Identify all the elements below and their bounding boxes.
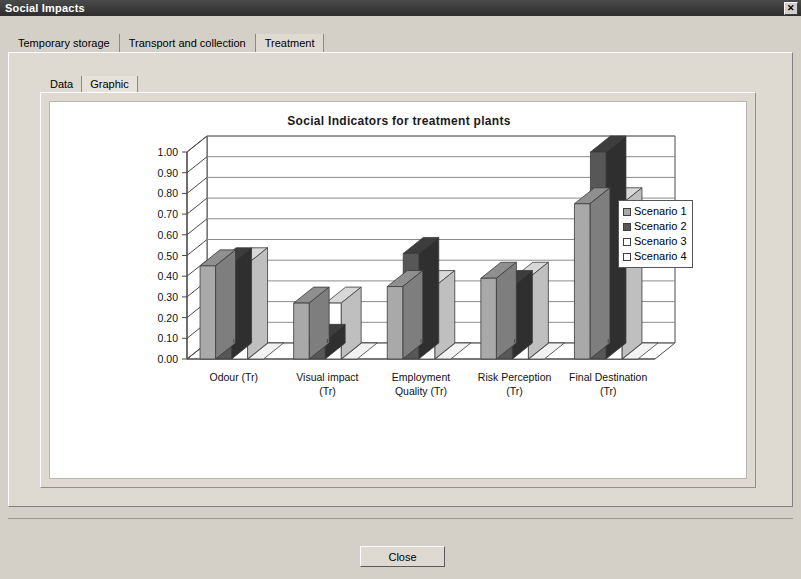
svg-text:Risk Perception: Risk Perception (478, 371, 552, 383)
main-tabstrip: Temporary storage Transport and collecti… (9, 33, 324, 53)
chart-legend: Scenario 1 Scenario 2 Scenario 3 Scenari… (618, 200, 693, 268)
tab-temporary-storage[interactable]: Temporary storage (9, 34, 120, 53)
legend-label-scenario-1: Scenario 1 (634, 206, 687, 217)
svg-text:Final Destination: Final Destination (569, 371, 647, 383)
svg-text:(Tr): (Tr) (319, 385, 336, 397)
footer-divider (8, 518, 793, 519)
legend-swatch-scenario-1 (623, 208, 631, 216)
legend-item-scenario-1: Scenario 1 (623, 204, 687, 219)
bar-chart-plot: 1.000.900.800.700.600.500.400.300.200.10… (50, 102, 747, 479)
tab-graphic[interactable]: Graphic (82, 76, 138, 93)
svg-text:0.40: 0.40 (158, 270, 179, 282)
legend-label-scenario-4: Scenario 4 (634, 251, 687, 262)
svg-text:Quality (Tr): Quality (Tr) (395, 385, 447, 397)
legend-label-scenario-3: Scenario 3 (634, 236, 687, 247)
legend-item-scenario-4: Scenario 4 (623, 249, 687, 264)
chart-canvas: Social Indicators for treatment plants 1… (49, 101, 747, 479)
social-impacts-window: Social Impacts ✕ Temporary storage Trans… (0, 0, 801, 579)
svg-text:0.50: 0.50 (158, 250, 179, 262)
svg-text:(Tr): (Tr) (600, 385, 617, 397)
svg-text:1.00: 1.00 (158, 146, 179, 158)
svg-text:0.90: 0.90 (158, 167, 179, 179)
legend-item-scenario-2: Scenario 2 (623, 219, 687, 234)
svg-text:0.20: 0.20 (158, 312, 179, 324)
tab-transport-and-collection[interactable]: Transport and collection (120, 34, 256, 53)
svg-text:0.60: 0.60 (158, 229, 179, 241)
svg-text:0.80: 0.80 (158, 187, 179, 199)
legend-label-scenario-2: Scenario 2 (634, 221, 687, 232)
tab-data[interactable]: Data (42, 76, 82, 93)
close-button[interactable]: Close (360, 546, 445, 567)
svg-text:Visual impact: Visual impact (296, 371, 358, 383)
legend-item-scenario-3: Scenario 3 (623, 234, 687, 249)
legend-swatch-scenario-4 (623, 253, 631, 261)
legend-swatch-scenario-3 (623, 238, 631, 246)
svg-text:Employment: Employment (392, 371, 450, 383)
sub-tabstrip: Data Graphic (42, 75, 138, 93)
close-x-icon[interactable]: ✕ (784, 2, 798, 15)
svg-text:0.70: 0.70 (158, 208, 179, 220)
svg-text:Odour (Tr): Odour (Tr) (209, 371, 258, 383)
title-bar: Social Impacts ✕ (0, 0, 801, 16)
svg-text:0.00: 0.00 (158, 353, 179, 365)
svg-text:(Tr): (Tr) (506, 385, 523, 397)
svg-text:0.10: 0.10 (158, 332, 179, 344)
window-title: Social Impacts (0, 2, 85, 14)
legend-swatch-scenario-2 (623, 223, 631, 231)
treatment-panel: Data Graphic Social Indicators for treat… (8, 52, 793, 507)
graphic-panel: Social Indicators for treatment plants 1… (40, 92, 756, 488)
tab-treatment[interactable]: Treatment (256, 34, 325, 53)
svg-text:0.30: 0.30 (158, 291, 179, 303)
